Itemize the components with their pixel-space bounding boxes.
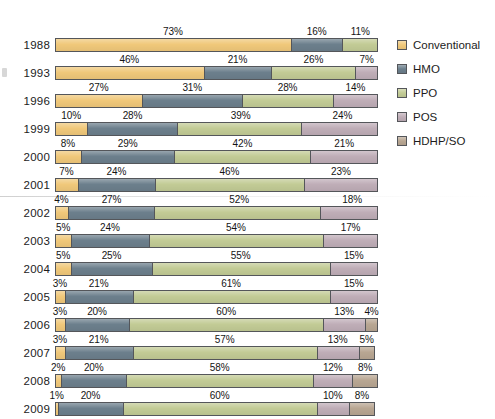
bar-segment-ppo [129,318,323,332]
segment-value-label: 3% [53,278,67,289]
bar-segment-conventional [55,178,78,192]
segment-value-label: 11% [351,26,370,37]
bar-segment-hdhp-so [352,374,378,388]
bar-segment-ppo [342,38,378,52]
segment-value-label: 24% [100,222,120,233]
stacked-bar [55,318,378,332]
bar-segment-pos [301,122,378,136]
segment-value-label: 21% [89,278,109,289]
bar-segment-conventional [55,206,68,220]
bar-segment-hmo [61,374,126,388]
chart-row-2003: 20035%24%54%17% [0,223,390,251]
segment-value-label: 5% [56,250,70,261]
bar-segment-ppo [133,290,330,304]
legend-item-conventional[interactable]: Conventional [397,33,493,57]
bar-segment-hmo [65,346,133,360]
stacked-bar [55,178,378,192]
legend-item-hmo[interactable]: HMO [397,57,493,81]
bar-segment-ppo [155,178,304,192]
bar-segment-ppo [174,150,310,164]
legend-item-label: HDHP/SO [413,135,465,147]
year-label: 2003 [14,235,50,247]
year-label: 1999 [14,123,50,135]
year-label: 2002 [14,207,50,219]
segment-value-label: 73% [163,26,183,37]
year-label: 2009 [14,403,50,415]
bar-segment-hmo [204,66,272,80]
bar-segment-conventional [55,94,142,108]
bar-segment-pos [330,290,378,304]
stacked-bar [55,234,378,248]
stacked-bar [55,206,378,220]
segment-value-label: 4% [364,306,378,317]
stacked-bar [55,122,378,136]
legend-item-ppo[interactable]: PPO [397,81,493,105]
segment-value-label: 13% [328,334,348,345]
bar-segment-pos [320,206,378,220]
value-label-group: 5%25%55%15% [55,250,378,262]
segment-value-label: 42% [232,138,252,149]
legend-item-label: HMO [413,63,440,75]
year-label: 2004 [14,263,50,275]
bar-segment-conventional [55,290,65,304]
segment-value-label: 18% [342,194,362,205]
chart-row-2004: 20045%25%55%15% [0,251,390,279]
value-label-group: 10%28%39%24% [55,110,378,122]
chart-row-2001: 20017%24%46%23% [0,167,390,195]
stacked-bar [55,150,378,164]
year-label: 2001 [14,179,50,191]
segment-value-label: 5% [56,222,70,233]
plot-area: 198873%16%11%199346%21%26%7%199627%31%28… [0,0,390,399]
segment-value-label: 24% [333,110,353,121]
segment-value-label: 24% [107,166,127,177]
legend-item-label: PPO [413,87,437,99]
segment-value-label: 1% [49,390,63,401]
segment-value-label: 15% [344,278,364,289]
bar-segment-hmo [291,38,343,52]
segment-value-label: 21% [89,334,109,345]
legend-item-label: Conventional [413,39,480,51]
bar-segment-ppo [126,374,313,388]
segment-value-label: 27% [89,82,109,93]
bar-segment-pos [330,262,378,276]
segment-value-label: 28% [123,110,143,121]
bar-segment-hmo [142,94,242,108]
value-label-group: 8%29%42%21% [55,138,378,150]
segment-value-label: 3% [53,306,67,317]
stacked-bar [55,346,378,360]
chart-row-1999: 199910%28%39%24% [0,111,390,139]
year-label: 2005 [14,291,50,303]
segment-value-label: 10% [323,390,343,401]
segment-value-label: 39% [231,110,251,121]
chart-row-2008: 20082%20%58%12%8% [0,363,390,391]
bar-segment-hdhp-so [359,346,375,360]
stacked-bar [55,38,378,52]
segment-value-label: 5% [360,334,374,345]
segment-value-label: 15% [344,250,364,261]
bar-segment-ppo [149,234,323,248]
segment-value-label: 3% [53,334,67,345]
legend-swatch-pos [397,112,407,122]
bar-segment-hmo [81,150,175,164]
segment-value-label: 29% [118,138,138,149]
segment-value-label: 20% [87,306,107,317]
chart-legend: ConventionalHMOPPOPOSHDHP/SO [397,33,493,153]
stacked-bar [55,262,378,276]
bar-segment-conventional [55,318,65,332]
year-label: 1993 [14,67,50,79]
value-label-group: 1%20%60%10%8% [55,390,378,402]
legend-item-hdhp-so[interactable]: HDHP/SO [397,129,493,153]
bar-segment-hmo [87,122,177,136]
segment-value-label: 21% [228,54,248,65]
segment-value-label: 8% [358,362,372,373]
legend-item-pos[interactable]: POS [397,105,493,129]
year-label: 2008 [14,375,50,387]
bar-segment-hmo [65,290,133,304]
legend-swatch-conventional [397,40,407,50]
segment-value-label: 17% [341,222,361,233]
bar-segment-ppo [123,402,317,416]
year-label: 1996 [14,95,50,107]
chart-row-2007: 20073%21%57%13%5% [0,335,390,363]
segment-value-label: 20% [81,390,101,401]
segment-value-label: 8% [61,138,75,149]
